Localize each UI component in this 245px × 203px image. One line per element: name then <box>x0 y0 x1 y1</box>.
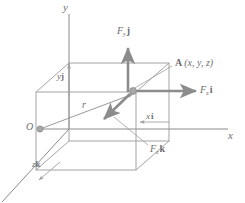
point-a-coords: (x, y, z) <box>184 57 213 68</box>
force-vector-diagram: y x O r Fyj Fxi Fzk A(x, y, z) yj xi zk <box>0 0 245 203</box>
box-edge-tl <box>36 63 69 92</box>
y-axis-label: y <box>63 2 68 13</box>
force-fz-unit-vector: k <box>160 143 166 154</box>
origin-node <box>37 126 43 132</box>
point-a-name: A <box>175 57 182 68</box>
point-a-leader-line <box>133 66 172 89</box>
force-fz-label: Fzk <box>150 144 165 155</box>
force-fy-subscript: y <box>123 30 126 37</box>
x-axis-label: x <box>228 130 233 141</box>
zk-component-label: zk <box>32 160 41 169</box>
zk-unit-vector: k <box>36 159 41 169</box>
force-fx-subscript: x <box>206 89 209 96</box>
force-fy-unit-vector: j <box>127 25 130 36</box>
xi-component-label: xi <box>146 112 154 121</box>
box-edge-bl <box>36 141 69 170</box>
force-fz-subscript: z <box>156 148 158 155</box>
force-fx-unit-vector: i <box>210 84 213 95</box>
point-a-node <box>130 88 137 95</box>
xi-unit-vector: i <box>151 111 154 121</box>
xi-value: x <box>146 111 150 121</box>
force-fz-arrow <box>104 94 130 119</box>
position-vector-label: r <box>82 100 86 110</box>
yj-component-label: yj <box>57 72 64 81</box>
force-fx-label: Fxi <box>200 85 213 96</box>
yj-unit-vector: j <box>61 71 64 81</box>
origin-label: O <box>26 122 33 132</box>
position-vector-r <box>40 94 133 129</box>
force-fy-label: Fyj <box>117 26 130 37</box>
point-a-callout: A(x, y, z) <box>175 58 213 68</box>
